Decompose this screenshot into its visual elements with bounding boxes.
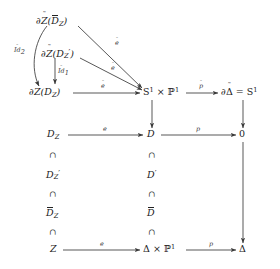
label-p-bottom: p <box>209 241 213 247</box>
delta-symbol: Δ <box>239 243 246 254</box>
inclusion-symbol-mid-3: ∩ <box>148 228 155 237</box>
node-s1-p1: S1 × ℙ1 <box>143 87 179 97</box>
node-zero: 0 <box>239 129 245 139</box>
label-e-mid: e <box>103 126 107 132</box>
node-dprime: D′ <box>147 169 156 179</box>
id-tilde: ˜Id <box>14 47 21 53</box>
p-blackboard: ℙ <box>168 86 175 97</box>
z-tilde: ˜Z <box>46 49 53 59</box>
inclusion-symbol-mid-2: ∩ <box>148 190 155 199</box>
node-z: Z <box>50 244 57 254</box>
node-dz-dbar-z: ∂˜Z(DZ) <box>36 16 67 27</box>
subscript-z: Z <box>59 20 64 28</box>
node-dbar: D <box>147 208 155 218</box>
node-dz-d-z: ∂˜Z(DZ) <box>29 87 60 98</box>
diagram-canvas: ∂˜Z(DZ) ∂˜Z(DZ′) ∂˜Z(DZ) S1 × ℙ1 ∂˜Δ = S… <box>0 0 280 269</box>
node-delta-p1: Δ × ℙ1 <box>143 244 175 254</box>
inclusion-symbol-left-2: ∩ <box>49 190 56 199</box>
arrow-etilde-diag-upper <box>78 26 142 88</box>
e-tilde: ˜e <box>111 65 115 71</box>
node-d-z: DZ <box>47 129 59 140</box>
node-delta: Δ <box>239 244 246 254</box>
label-etilde-main: ˜e <box>101 83 105 89</box>
label-idtilde1: ˜Id1 <box>58 68 69 76</box>
diagram-arrows <box>0 0 280 269</box>
d-overline: D <box>147 208 155 218</box>
label-etilde-diag-upper: ˜e <box>115 40 119 46</box>
z-tilde: ˜Z <box>34 87 41 97</box>
node-dz-dprime-z: ∂˜Z(DZ′) <box>41 48 74 60</box>
d-overline: D <box>51 16 59 26</box>
d-overline: D <box>46 208 54 218</box>
e-tilde: ˜e <box>115 40 119 46</box>
delta-symbol: Δ <box>143 243 150 254</box>
node-d: D <box>147 129 155 139</box>
node-dbar-z: DZ <box>46 208 58 219</box>
label-idtilde2: ˜Id2 <box>14 47 25 55</box>
node-dprime-z: DZ′ <box>46 169 60 181</box>
e-tilde: ˜e <box>101 83 105 89</box>
inclusion-symbol-left-3: ∩ <box>49 228 56 237</box>
equals-symbol: = <box>236 86 244 97</box>
label-ptilde: ˜p <box>199 83 203 89</box>
label-etilde-diag-lower: ˜e <box>111 65 115 71</box>
times-symbol: × <box>157 86 165 97</box>
inclusion-symbol-mid-1: ∩ <box>148 151 155 160</box>
id-tilde: ˜Id <box>58 68 65 74</box>
inclusion-symbol-left-1: ∩ <box>49 151 56 160</box>
p-tilde: ˜p <box>199 83 203 89</box>
node-ddelta-s1: ∂˜Δ = S1 <box>221 87 258 97</box>
label-p-mid: p <box>196 126 200 132</box>
label-e-bottom: e <box>100 241 104 247</box>
z-tilde: ˜Z <box>41 16 48 26</box>
delta-tilde: ˜Δ <box>226 87 233 97</box>
